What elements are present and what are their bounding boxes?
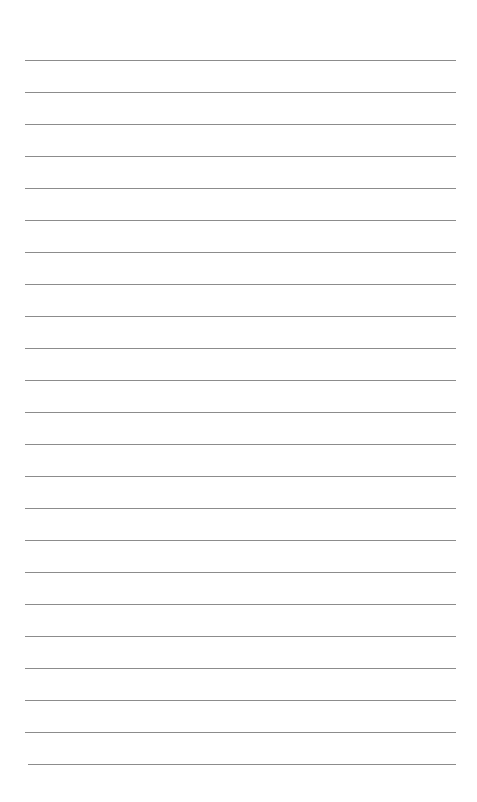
ruled-line [25,668,456,669]
ruled-line [25,412,456,413]
ruled-line [28,764,456,765]
ruled-line [25,124,456,125]
ruled-line [25,508,456,509]
ruled-line [25,284,456,285]
ruled-line [25,636,456,637]
ruled-line [25,316,456,317]
ruled-line [25,188,456,189]
ruled-line [25,348,456,349]
ruled-line [25,700,456,701]
ruled-line [25,252,456,253]
lined-paper-page [0,0,477,802]
ruled-line [25,444,456,445]
ruled-line [25,572,456,573]
ruled-line [25,540,456,541]
ruled-line [25,92,456,93]
ruled-line [25,380,456,381]
ruled-line [25,60,456,61]
ruled-line [25,220,456,221]
ruled-line [25,604,456,605]
ruled-line [25,156,456,157]
ruled-line [25,476,456,477]
ruled-line [25,732,456,733]
